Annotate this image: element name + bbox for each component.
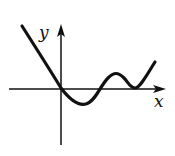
y-axis-label: y bbox=[38, 22, 49, 42]
x-axis-label: x bbox=[154, 91, 164, 111]
graph-canvas: y x bbox=[0, 0, 175, 156]
function-graph: y x bbox=[0, 0, 175, 156]
